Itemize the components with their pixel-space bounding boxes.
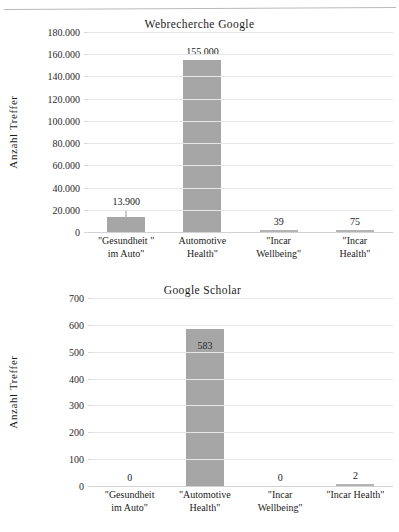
bar: [107, 217, 145, 232]
page-top-rule: [4, 7, 396, 10]
y-axis-ticks-top: 020.00040.00060.00080.000100.000120.0001…: [26, 32, 84, 232]
x-axis-category-label: "Gesundheit " im Auto": [88, 234, 164, 260]
y-axis-tick-label: 100: [69, 454, 84, 465]
axis-tick-mark: [88, 298, 92, 299]
gridline: [88, 188, 393, 189]
bar-slot: 0: [243, 298, 318, 486]
gridline: [92, 459, 393, 460]
y-axis-tick-label: 160.000: [48, 49, 81, 60]
x-axis-labels-bottom: "Gesundheit im Auto""Automotive Health""…: [92, 488, 393, 514]
axis-tick-mark: [84, 165, 88, 166]
chart-title-bottom: Google Scholar: [0, 282, 399, 298]
bar-data-label: 583: [197, 340, 212, 351]
y-axis-tick-label: 100.000: [48, 115, 81, 126]
axis-tick-mark: [84, 54, 88, 55]
gridline: [92, 352, 393, 353]
y-axis-tick-label: 180.000: [48, 27, 81, 38]
gridline: [88, 232, 393, 233]
gridline: [92, 325, 393, 326]
y-axis-title-text-bottom: Anzahl Treffer: [7, 355, 19, 428]
y-axis-tick-label: 700: [69, 293, 84, 304]
gridline: [88, 54, 393, 55]
y-axis-tick-label: 60.000: [53, 160, 81, 171]
axis-tick-mark: [88, 379, 92, 380]
y-axis-tick-label: 120.000: [48, 93, 81, 104]
gridline: [88, 99, 393, 100]
axis-tick-mark: [84, 232, 88, 233]
x-axis-category-label: "Incar Wellbeing": [241, 234, 317, 260]
bar-data-label: 0: [127, 472, 132, 483]
axis-tick-mark: [88, 459, 92, 460]
chart-webrecherche-google: Webrecherche Google Anzahl Treffer 020.0…: [0, 16, 399, 278]
y-axis-tick-label: 20.000: [53, 204, 81, 215]
x-axis-labels-top: "Gesundheit " im Auto"Automotive Health"…: [88, 234, 393, 260]
bar-slot: 0: [92, 298, 167, 486]
gridline: [92, 298, 393, 299]
gridline: [88, 143, 393, 144]
y-axis-tick-label: 600: [69, 319, 84, 330]
y-axis-tick-label: 0: [75, 227, 80, 238]
axis-tick-mark: [84, 99, 88, 100]
y-axis-tick-label: 400: [69, 373, 84, 384]
y-axis-title-top: Anzahl Treffer: [0, 32, 26, 232]
chart-plot-area-bottom: Anzahl Treffer 0100200300400500600700 05…: [0, 298, 399, 486]
bar-data-label: 13.900: [112, 196, 140, 207]
axis-tick-mark: [88, 352, 92, 353]
axis-tick-mark: [88, 486, 92, 487]
bar-data-label: 75: [350, 216, 360, 227]
axis-tick-mark: [84, 143, 88, 144]
plot-canvas-top: 13.900155.0003975: [88, 32, 393, 232]
y-axis-tick-label: 40.000: [53, 182, 81, 193]
x-axis-category-label: "Automotive Health": [167, 488, 242, 514]
y-axis-ticks-bottom: 0100200300400500600700: [30, 298, 88, 486]
gridline: [92, 486, 393, 487]
gridline: [92, 432, 393, 433]
y-axis-tick-label: 300: [69, 400, 84, 411]
y-axis-tick-label: 500: [69, 346, 84, 357]
bar-data-label: 0: [278, 472, 283, 483]
y-axis-title-bottom: Anzahl Treffer: [0, 298, 26, 486]
x-axis-category-label: "Gesundheit im Auto": [92, 488, 167, 514]
gridline: [88, 210, 393, 211]
x-axis-category-label: "Incar Health": [318, 488, 393, 514]
gridline: [88, 121, 393, 122]
axis-tick-mark: [84, 32, 88, 33]
axis-tick-mark: [84, 188, 88, 189]
bar: [183, 60, 221, 232]
bar-series-top: 13.900155.0003975: [88, 32, 393, 232]
axis-tick-mark: [88, 325, 92, 326]
y-axis-title-text-top: Anzahl Treffer: [7, 95, 19, 168]
gridline: [88, 165, 393, 166]
bar: [186, 329, 224, 486]
figure-page: Webrecherche Google Anzahl Treffer 020.0…: [0, 0, 399, 532]
plot-canvas-bottom: 058302: [92, 298, 393, 486]
bar-slot: 583: [167, 298, 242, 486]
y-axis-tick-label: 140.000: [48, 71, 81, 82]
bar-series-bottom: 058302: [92, 298, 393, 486]
axis-tick-mark: [84, 121, 88, 122]
gridline: [88, 76, 393, 77]
gridline: [92, 405, 393, 406]
x-axis-category-label: "Incar Health": [317, 234, 393, 260]
gridline: [88, 32, 393, 33]
axis-tick-mark: [88, 405, 92, 406]
chart-plot-area-top: Anzahl Treffer 020.00040.00060.00080.000…: [0, 32, 399, 232]
bar-slot: 13.900: [88, 32, 164, 232]
gridline: [92, 379, 393, 380]
y-axis-tick-label: 80.000: [53, 138, 81, 149]
bar-data-label: 39: [274, 216, 284, 227]
axis-tick-mark: [84, 210, 88, 211]
bar-slot: 2: [318, 298, 393, 486]
bar-slot: 155.000: [164, 32, 240, 232]
y-axis-tick-label: 0: [79, 481, 84, 492]
axis-tick-mark: [88, 432, 92, 433]
bar-data-label: 2: [353, 470, 358, 481]
y-axis-tick-label: 200: [69, 427, 84, 438]
bar-slot: 39: [241, 32, 317, 232]
bar-slot: 75: [317, 32, 393, 232]
chart-google-scholar: Google Scholar Anzahl Treffer 0100200300…: [0, 282, 399, 532]
axis-tick-mark: [84, 76, 88, 77]
x-axis-category-label: Automotive Health": [164, 234, 240, 260]
x-axis-category-label: "Incar Wellbeing": [243, 488, 318, 514]
